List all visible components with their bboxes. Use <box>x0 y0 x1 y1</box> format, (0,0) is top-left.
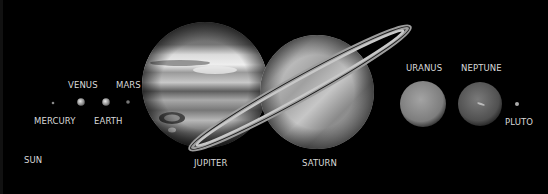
label-uranus: URANUS <box>406 63 442 73</box>
label-neptune: NEPTUNE <box>461 63 502 73</box>
venus-icon <box>77 98 85 106</box>
pluto-icon <box>515 102 519 106</box>
label-mercury: MERCURY <box>34 116 76 126</box>
mercury-icon <box>52 102 55 105</box>
mars-icon <box>126 100 130 104</box>
label-saturn: SATURN <box>302 158 337 168</box>
uranus-icon <box>400 81 446 127</box>
planets-illustration <box>0 0 548 194</box>
label-pluto: PLUTO <box>505 117 533 127</box>
earth-icon <box>102 98 110 106</box>
neptune-icon <box>458 82 502 126</box>
sun-edge-icon <box>0 0 3 194</box>
label-mars: MARS <box>116 80 141 90</box>
label-sun: SUN <box>24 155 42 165</box>
label-jupiter: JUPITER <box>194 158 228 168</box>
label-earth: EARTH <box>94 116 123 126</box>
solar-system-scene: SUN MERCURY VENUS EARTH MARS JUPITER SAT… <box>0 0 548 194</box>
label-venus: VENUS <box>68 80 98 90</box>
